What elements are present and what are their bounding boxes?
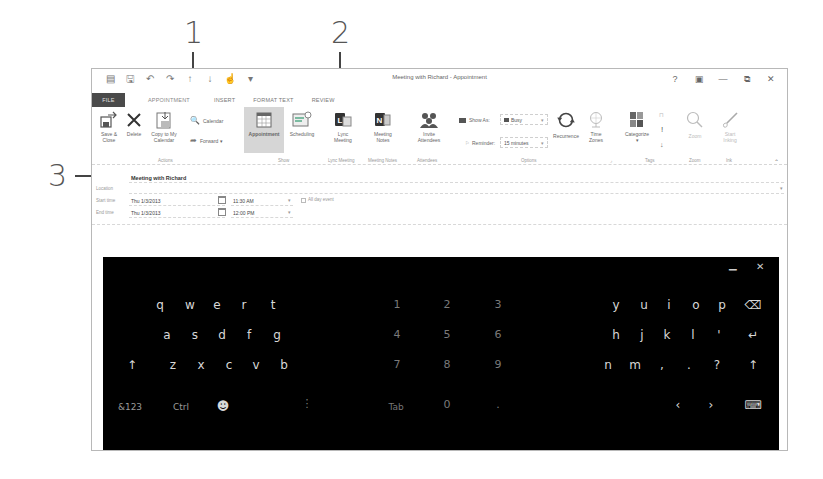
scheduling-button[interactable]: Scheduling [285, 111, 319, 137]
keyboard-dots-icon[interactable]: ⋮ [297, 397, 317, 411]
appointment-button[interactable]: Appointment [244, 107, 284, 153]
save-close-button[interactable]: Save & Close [97, 111, 121, 143]
calendar-button[interactable]: 🔍 Calendar [190, 116, 223, 125]
key-s[interactable]: s [185, 328, 205, 342]
end-time-label: End time [96, 210, 114, 215]
key-tab[interactable]: Tab [383, 400, 409, 414]
key-apostrophe[interactable]: ' [709, 328, 729, 342]
key-3[interactable]: 3 [488, 298, 508, 312]
tab-file[interactable]: FILE [92, 93, 125, 107]
key-2[interactable]: 2 [437, 298, 457, 312]
key-u[interactable]: u [634, 298, 654, 312]
key-y[interactable]: y [606, 298, 626, 312]
options-dialog-launcher-icon[interactable]: ⌟ [610, 158, 612, 163]
invite-attendees-button[interactable]: Invite Attendees [412, 111, 446, 143]
key-symbols[interactable]: &123 [115, 400, 145, 414]
key-c[interactable]: c [219, 358, 239, 372]
end-date-field[interactable]: Thu 1/3/2013 [129, 208, 225, 218]
zoom-button[interactable]: Zoom [682, 111, 708, 139]
key-ctrl[interactable]: Ctrl [169, 400, 193, 414]
key-l[interactable]: l [683, 328, 703, 342]
collapse-ribbon-icon[interactable]: ⌃ [774, 158, 779, 165]
tab-review[interactable]: REVIEW [303, 93, 344, 107]
key-4[interactable]: 4 [387, 328, 407, 342]
start-time-chevron-icon[interactable]: ▾ [288, 197, 291, 203]
minimize-icon[interactable]: — [711, 72, 735, 86]
key-5[interactable]: 5 [437, 328, 457, 342]
location-dropdown-icon[interactable]: ▾ [780, 185, 783, 191]
key-n[interactable]: n [598, 358, 618, 372]
key-t[interactable]: t [263, 298, 283, 312]
forward-button[interactable]: ➦ Forward ▾ [190, 136, 223, 145]
high-importance-button[interactable]: ! [661, 125, 663, 134]
key-6[interactable]: 6 [488, 328, 508, 342]
key-8[interactable]: 8 [437, 358, 457, 372]
key-9[interactable]: 9 [488, 358, 508, 372]
private-button[interactable]: ⊓ [659, 111, 664, 118]
key-r[interactable]: r [234, 298, 254, 312]
key-f[interactable]: f [239, 328, 259, 342]
restore-icon[interactable]: ⧉ [735, 72, 759, 86]
key-1[interactable]: 1 [387, 298, 407, 312]
start-date-field[interactable]: Thu 1/3/2013 [129, 196, 225, 206]
key-shift-left[interactable]: ↑ [122, 358, 142, 372]
key-shift-right[interactable]: ↑ [743, 358, 763, 372]
key-z[interactable]: z [163, 358, 183, 372]
key-comma[interactable]: , [652, 358, 672, 372]
key-backspace-icon[interactable]: ⌫ [743, 298, 763, 312]
reminder-dropdown[interactable]: 15 minutes ▾ [500, 137, 548, 148]
key-h[interactable]: h [606, 328, 626, 342]
subject-field[interactable]: Meeting with Richard [129, 173, 784, 183]
key-e[interactable]: e [207, 298, 227, 312]
copy-to-calendar-button[interactable]: Copy to My Calendar [147, 111, 181, 143]
end-date-calendar-icon[interactable] [218, 208, 226, 216]
tab-insert[interactable]: INSERT [205, 93, 244, 107]
keyboard-layout-icon[interactable]: ⌨ [743, 398, 763, 412]
key-period[interactable]: . [679, 358, 699, 372]
recurrence-button[interactable]: Recurrence [549, 111, 583, 139]
key-d[interactable]: d [212, 328, 232, 342]
key-q[interactable]: q [150, 298, 170, 312]
show-as-dropdown[interactable]: Busy ▾ [500, 114, 548, 125]
start-time-field[interactable]: 11:30 AM [231, 196, 293, 206]
key-right-arrow[interactable]: › [701, 398, 721, 412]
emoji-icon[interactable]: ☻ [213, 399, 233, 413]
key-a[interactable]: a [157, 328, 177, 342]
key-b[interactable]: b [274, 358, 294, 372]
keyboard-close-icon[interactable]: ✕ [756, 261, 764, 272]
tab-appointment[interactable]: APPOINTMENT [139, 93, 199, 107]
categorize-button[interactable]: Categorize ▾ [620, 111, 654, 143]
key-w[interactable]: w [180, 298, 200, 312]
key-p[interactable]: p [712, 298, 732, 312]
delete-button[interactable]: Delete [124, 111, 144, 137]
key-j[interactable]: j [632, 328, 652, 342]
key-question[interactable]: ? [707, 358, 727, 372]
keyboard-minimize-icon[interactable]: ▁ [729, 259, 737, 270]
end-time-chevron-icon[interactable]: ▾ [288, 209, 291, 215]
ribbon-options-icon[interactable]: ▣ [687, 72, 711, 86]
key-left-arrow[interactable]: ‹ [668, 398, 688, 412]
start-inking-button[interactable]: Start Inking [717, 111, 743, 143]
key-0[interactable]: 0 [437, 398, 457, 412]
time-zones-button[interactable]: Time Zones [585, 111, 607, 143]
key-g[interactable]: g [267, 328, 287, 342]
key-m[interactable]: m [625, 358, 645, 372]
lync-meeting-button[interactable]: L Lync Meeting [328, 111, 358, 143]
low-importance-button[interactable]: ↓ [660, 141, 664, 148]
end-time-field[interactable]: 12:00 PM [231, 208, 293, 218]
tab-format-text[interactable]: FORMAT TEXT [244, 93, 302, 107]
key-i[interactable]: i [659, 298, 679, 312]
location-field[interactable] [129, 184, 784, 194]
start-date-calendar-icon[interactable] [218, 196, 226, 204]
key-v[interactable]: v [246, 358, 266, 372]
meeting-notes-button[interactable]: N Meeting Notes [368, 111, 398, 143]
key-decimal[interactable]: . [488, 398, 508, 412]
key-7[interactable]: 7 [387, 358, 407, 372]
key-x[interactable]: x [191, 358, 211, 372]
key-k[interactable]: k [657, 328, 677, 342]
all-day-checkbox[interactable] [301, 198, 306, 203]
key-o[interactable]: o [686, 298, 706, 312]
help-icon[interactable]: ? [663, 72, 687, 86]
key-enter-icon[interactable]: ↵ [743, 328, 763, 342]
close-icon[interactable]: ✕ [759, 72, 783, 86]
